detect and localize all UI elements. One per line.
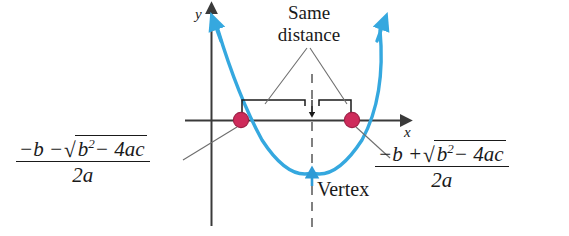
left-root-formula: −b −√b2− 4ac 2a	[16, 135, 150, 187]
quadratic-formula-figure: y x Same distance Vertex −b −√b2− 4ac 2a…	[0, 0, 569, 236]
y-axis-label: y	[195, 6, 202, 23]
left-radicand: b2− 4ac	[75, 135, 147, 160]
left-root-denominator: 2a	[16, 162, 150, 186]
right-numerator-prefix: −b +	[378, 142, 422, 166]
right-radical-symbol: √	[423, 144, 435, 166]
left-radicand-base: b	[78, 137, 89, 161]
right-radical: √b2− 4ac	[422, 140, 506, 165]
left-root-numerator: −b −√b2− 4ac	[16, 135, 150, 162]
right-root-formula: −b +√b2− 4ac 2a	[375, 140, 509, 192]
left-root-fraction: −b −√b2− 4ac 2a	[16, 135, 150, 187]
right-root-denominator: 2a	[375, 167, 509, 191]
right-radicand: b2− 4ac	[434, 140, 506, 165]
same-distance-line-1: Same	[255, 2, 363, 24]
left-radical: √b2− 4ac	[63, 135, 147, 160]
left-root-point	[233, 112, 248, 127]
left-radical-symbol: √	[64, 139, 76, 161]
vertex-annotation: Vertex	[317, 178, 369, 201]
left-radicand-rest: − 4ac	[95, 137, 145, 161]
same-distance-leader-left	[265, 48, 307, 104]
right-radicand-rest: − 4ac	[454, 142, 504, 166]
right-root-fraction: −b +√b2− 4ac 2a	[375, 140, 509, 192]
right-radicand-base: b	[437, 142, 448, 166]
x-axis-label: x	[404, 124, 411, 141]
same-distance-leader-right	[310, 48, 347, 104]
right-root-numerator: −b +√b2− 4ac	[375, 140, 509, 167]
left-formula-leader-line	[183, 127, 237, 160]
right-root-point	[344, 112, 359, 127]
left-numerator-prefix: −b −	[19, 137, 63, 161]
same-distance-line-2: distance	[255, 24, 363, 46]
same-distance-annotation: Same distance	[255, 2, 363, 47]
